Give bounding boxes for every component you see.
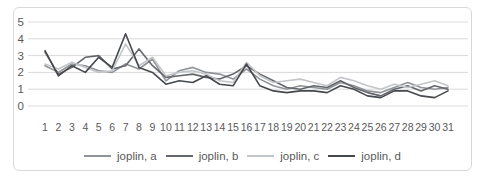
svg-text:19: 19 — [281, 121, 293, 133]
svg-text:4: 4 — [82, 121, 88, 133]
svg-text:2: 2 — [56, 121, 62, 133]
chart-legend: joplin, a joplin, b joplin, c joplin, d — [13, 147, 472, 165]
svg-text:2: 2 — [18, 66, 24, 78]
svg-text:12: 12 — [187, 121, 199, 133]
svg-text:14: 14 — [214, 121, 226, 133]
svg-text:1: 1 — [42, 121, 48, 133]
chart-container: 0123451234567891011121314151617181920212… — [0, 0, 481, 188]
svg-text:27: 27 — [388, 121, 400, 133]
svg-text:23: 23 — [335, 121, 347, 133]
svg-text:10: 10 — [160, 121, 172, 133]
legend-label: joplin, d — [361, 150, 401, 162]
legend-label: joplin, a — [117, 150, 157, 162]
svg-text:13: 13 — [200, 121, 212, 133]
legend-line-swatch — [247, 155, 274, 157]
svg-text:0: 0 — [18, 100, 24, 112]
svg-text:7: 7 — [123, 121, 129, 133]
svg-text:6: 6 — [109, 121, 115, 133]
legend-label: joplin, b — [199, 150, 239, 162]
svg-text:3: 3 — [18, 50, 24, 62]
legend-line-swatch — [84, 155, 111, 157]
legend-line-swatch — [328, 155, 355, 157]
legend-label: joplin, c — [280, 150, 319, 162]
svg-text:4: 4 — [18, 33, 25, 45]
svg-text:22: 22 — [321, 121, 333, 133]
legend-item-joplin-b: joplin, b — [166, 150, 239, 162]
svg-text:29: 29 — [415, 121, 427, 133]
svg-text:17: 17 — [254, 121, 266, 133]
svg-text:24: 24 — [348, 121, 360, 133]
svg-text:18: 18 — [268, 121, 280, 133]
svg-text:15: 15 — [227, 121, 239, 133]
legend-item-joplin-d: joplin, d — [328, 150, 401, 162]
legend-item-joplin-c: joplin, c — [247, 150, 319, 162]
legend-line-swatch — [166, 155, 193, 157]
svg-text:8: 8 — [136, 121, 142, 133]
svg-text:31: 31 — [442, 121, 454, 133]
svg-text:1: 1 — [18, 83, 24, 95]
legend-item-joplin-a: joplin, a — [84, 150, 157, 162]
svg-text:25: 25 — [362, 121, 374, 133]
svg-text:5: 5 — [96, 121, 102, 133]
svg-text:16: 16 — [241, 121, 253, 133]
svg-text:5: 5 — [18, 16, 24, 28]
svg-text:9: 9 — [150, 121, 156, 133]
svg-text:20: 20 — [294, 121, 306, 133]
svg-text:30: 30 — [429, 121, 441, 133]
svg-text:11: 11 — [174, 121, 185, 133]
svg-text:3: 3 — [69, 121, 75, 133]
svg-text:21: 21 — [308, 121, 320, 133]
svg-text:26: 26 — [375, 121, 387, 133]
svg-text:28: 28 — [402, 121, 414, 133]
